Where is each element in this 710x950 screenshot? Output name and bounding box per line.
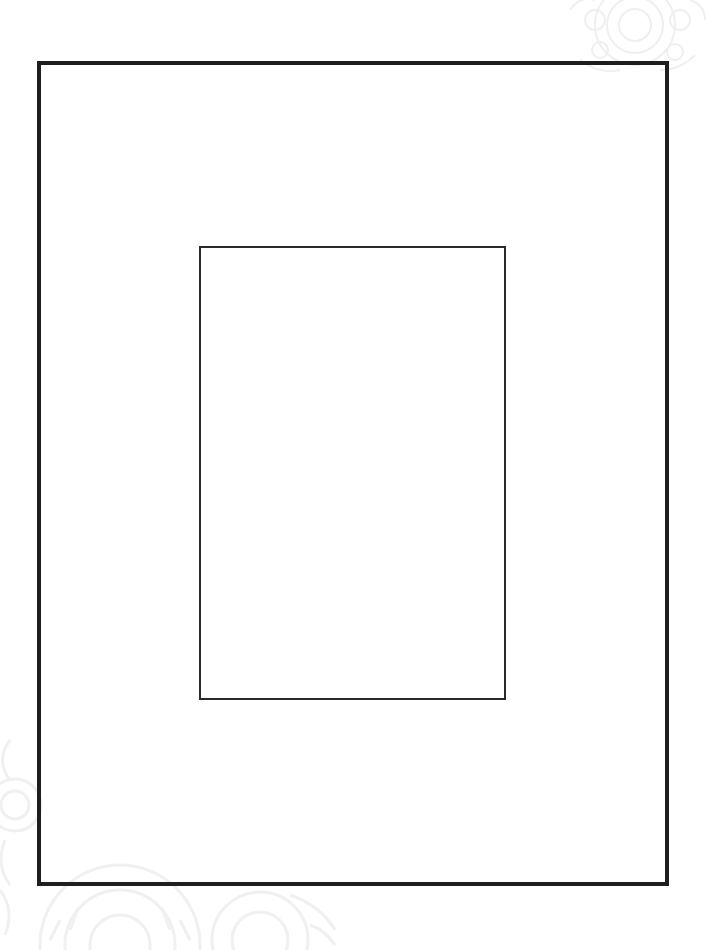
inner-frame xyxy=(199,246,506,700)
